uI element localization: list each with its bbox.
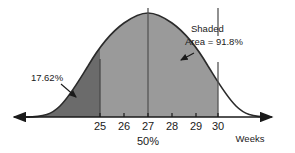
tick-label-29: 29 xyxy=(190,120,202,132)
shaded-area-label-line2: Area = 91.8% xyxy=(185,36,243,47)
chart-canvas: 25 26 27 28 29 30 50% Weeks 17.62% Shade… xyxy=(0,0,295,153)
left-tail-percent-label: 17.62% xyxy=(31,72,64,83)
tick-label-28: 28 xyxy=(166,120,178,132)
shaded-area-label-line1: Shaded xyxy=(191,23,224,34)
tick-label-27: 27 xyxy=(142,120,154,132)
normal-distribution-chart: 25 26 27 28 29 30 50% Weeks 17.62% Shade… xyxy=(0,0,295,153)
center-percent-label: 50% xyxy=(137,135,159,147)
tick-label-25: 25 xyxy=(94,120,106,132)
tick-label-30: 30 xyxy=(212,120,224,132)
tick-label-26: 26 xyxy=(118,120,130,132)
x-axis-title: Weeks xyxy=(236,133,265,144)
